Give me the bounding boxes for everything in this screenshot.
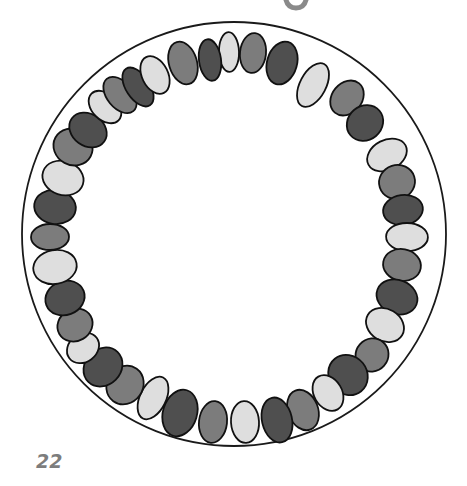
page-number: 22 [36,450,62,472]
bead-light [386,223,428,252]
bead-necklace-illustration [0,0,467,486]
outer-circle [22,22,446,446]
bead-medium [31,224,69,251]
title-letter-fragment-icon [286,0,306,8]
